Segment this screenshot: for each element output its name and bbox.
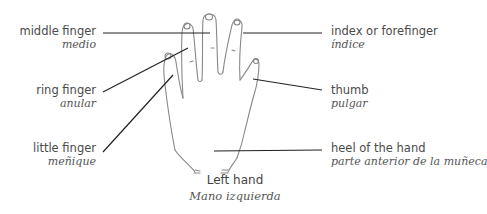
label-en: little finger: [33, 141, 96, 155]
label-ring-finger: ring finger anular: [36, 83, 96, 111]
label-es: parte anterior de la muñeca: [331, 155, 487, 169]
label-en: ring finger: [36, 83, 96, 97]
label-es: meñique: [33, 155, 96, 169]
label-middle-finger: middle finger medio: [19, 24, 96, 52]
label-en: thumb: [331, 83, 369, 97]
label-en: index or forefinger: [331, 24, 438, 38]
label-es: anular: [36, 97, 96, 111]
hand-sketch-icon: [164, 14, 259, 173]
diagram-caption: Left hand Mano izquierda: [170, 172, 300, 204]
caption-es: Mano izquierda: [170, 188, 300, 204]
caption-en: Left hand: [170, 172, 300, 188]
label-en: middle finger: [19, 24, 96, 38]
label-index-finger: index or forefinger índice: [331, 24, 438, 52]
label-thumb: thumb pulgar: [331, 83, 369, 111]
label-es: pulgar: [331, 97, 369, 111]
label-es: índice: [331, 38, 438, 52]
label-heel-of-hand: heel of the hand parte anterior de la mu…: [331, 141, 487, 169]
label-es: medio: [19, 38, 96, 52]
label-little-finger: little finger meñique: [33, 141, 96, 169]
label-en: heel of the hand: [331, 141, 487, 155]
